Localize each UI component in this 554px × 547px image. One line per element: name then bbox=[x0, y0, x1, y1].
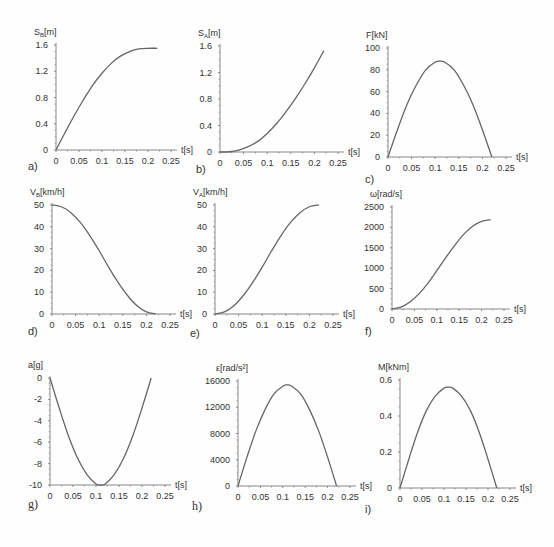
x-tick-label: 0.2 bbox=[303, 320, 316, 330]
chart-panel-c: 00.050.10.150.20.25020406080100t[s]F[kN] bbox=[365, 30, 528, 173]
x-tick-label: 0.05 bbox=[252, 492, 270, 502]
data-line-f bbox=[392, 220, 491, 309]
data-line-d bbox=[52, 205, 156, 314]
x-tick-label: 0 bbox=[397, 494, 402, 504]
y-tick-label: 0 bbox=[37, 373, 42, 383]
panel-tag-e: e) bbox=[190, 327, 200, 339]
x-tick-label: 0.05 bbox=[70, 156, 88, 166]
panel-tag-f: f) bbox=[365, 325, 372, 337]
y-tick-label: 0 bbox=[379, 304, 384, 314]
x-axis-label: t[s] bbox=[360, 481, 372, 491]
x-tick-label: 0.15 bbox=[277, 320, 295, 330]
y-tick-label: 4000 bbox=[210, 455, 230, 465]
x-tick-label: 0 bbox=[385, 163, 390, 173]
x-tick-label: 0.05 bbox=[413, 494, 431, 504]
y-tick-label: 50 bbox=[34, 200, 44, 210]
y-tick-label: 1500 bbox=[364, 243, 384, 253]
x-tick-label: 0.2 bbox=[140, 320, 153, 330]
y-tick-label: 0 bbox=[202, 309, 207, 319]
y-tick-label: 16000 bbox=[205, 376, 230, 386]
panel-tag-c: c) bbox=[365, 173, 374, 185]
y-tick-label: 30 bbox=[34, 244, 44, 254]
x-tick-label: 0.15 bbox=[114, 320, 132, 330]
x-tick-label: 0.05 bbox=[235, 158, 253, 168]
y-tick-label: 10 bbox=[197, 287, 207, 297]
x-tick-label: 0.2 bbox=[308, 158, 321, 168]
x-tick-label: 0.25 bbox=[495, 315, 513, 325]
chart-panel-i: 00.050.10.150.20.2500.20.40.6t[s]M[kNm] bbox=[378, 362, 532, 504]
y-tick-label: 1.2 bbox=[35, 66, 48, 76]
y-tick-label: 0.4 bbox=[379, 411, 392, 421]
y-tick-label: 30 bbox=[197, 244, 207, 254]
y-axis-label: a[g] bbox=[28, 360, 43, 370]
x-tick-label: 0.2 bbox=[321, 492, 334, 502]
x-tick-label: 0.2 bbox=[476, 163, 489, 173]
x-tick-label: 0.2 bbox=[136, 491, 149, 501]
y-tick-label: 50 bbox=[197, 200, 207, 210]
x-tick-label: 0 bbox=[212, 320, 217, 330]
y-tick-label: 0 bbox=[387, 483, 392, 493]
x-tick-label: 0.2 bbox=[482, 494, 495, 504]
chart-panel-g: 00.050.10.150.20.25-10-8-6-4-20t[s]a[g] bbox=[28, 360, 187, 501]
y-tick-label: 1.6 bbox=[35, 40, 48, 50]
x-tick-label: 0.25 bbox=[324, 320, 342, 330]
x-tick-label: 0.25 bbox=[501, 494, 519, 504]
x-axis-label: t[s] bbox=[180, 309, 192, 319]
y-tick-label: 20 bbox=[34, 265, 44, 275]
x-tick-label: 0.15 bbox=[450, 315, 468, 325]
x-tick-label: 0.15 bbox=[457, 494, 475, 504]
data-line-h bbox=[238, 385, 337, 486]
x-tick-label: 0.15 bbox=[296, 492, 314, 502]
x-tick-label: 0.1 bbox=[277, 492, 290, 502]
x-tick-label: 0.1 bbox=[429, 163, 442, 173]
x-tick-label: 0.15 bbox=[282, 158, 300, 168]
x-tick-label: 0.1 bbox=[93, 320, 106, 330]
y-tick-label: 0.6 bbox=[379, 375, 392, 385]
y-tick-label: 40 bbox=[197, 222, 207, 232]
y-tick-label: 20 bbox=[370, 130, 380, 140]
chart-panel-h: 00.050.10.150.20.250400080001200016000t[… bbox=[205, 363, 372, 502]
y-tick-label: 500 bbox=[369, 284, 384, 294]
x-tick-label: 0.25 bbox=[329, 158, 347, 168]
y-tick-label: 1.6 bbox=[199, 41, 212, 51]
y-tick-label: 0.8 bbox=[199, 94, 212, 104]
y-tick-label: 0.2 bbox=[379, 447, 392, 457]
panel-tag-g: g) bbox=[28, 497, 38, 512]
y-axis-label: M[kNm] bbox=[378, 362, 409, 372]
x-tick-label: 0.1 bbox=[256, 320, 269, 330]
panel-tag-h: h) bbox=[192, 499, 202, 514]
panel-tag-b: b) bbox=[196, 163, 206, 175]
y-tick-label: 2000 bbox=[364, 222, 384, 232]
data-line-b bbox=[220, 51, 324, 152]
figure-grid: 00.050.10.150.20.2500.40.81.21.6t[s]SB[m… bbox=[0, 0, 554, 547]
x-tick-label: 0.25 bbox=[497, 163, 515, 173]
y-tick-label: 0.8 bbox=[35, 93, 48, 103]
chart-panel-d: 00.050.10.150.20.2501020304050t[s]VB[km/… bbox=[30, 187, 192, 330]
y-tick-label: 10 bbox=[34, 287, 44, 297]
data-line-e bbox=[215, 205, 319, 314]
x-tick-label: 0.25 bbox=[161, 320, 179, 330]
panel-tag-a: a) bbox=[28, 160, 38, 172]
y-tick-label: 20 bbox=[197, 265, 207, 275]
x-tick-label: 0.2 bbox=[142, 156, 155, 166]
y-tick-label: 0 bbox=[39, 309, 44, 319]
x-axis-label: t[s] bbox=[181, 145, 193, 155]
y-axis-label: F[kN] bbox=[366, 30, 388, 40]
y-axis-label: ε[rad/s²] bbox=[216, 363, 248, 373]
x-tick-label: 0.1 bbox=[90, 491, 103, 501]
x-axis-label: t[s] bbox=[348, 147, 360, 157]
x-axis-label: t[s] bbox=[514, 304, 526, 314]
y-tick-label: -6 bbox=[34, 437, 42, 447]
x-tick-label: 0.1 bbox=[438, 494, 451, 504]
x-tick-label: 0.15 bbox=[116, 156, 134, 166]
data-line-i bbox=[400, 387, 497, 488]
y-tick-label: 12000 bbox=[205, 402, 230, 412]
x-axis-label: t[s] bbox=[175, 480, 187, 490]
x-tick-label: 0 bbox=[235, 492, 240, 502]
y-axis-label: VA[km/h] bbox=[193, 187, 228, 198]
y-tick-label: 2500 bbox=[364, 202, 384, 212]
x-tick-label: 0 bbox=[49, 320, 54, 330]
y-tick-label: 1000 bbox=[364, 263, 384, 273]
chart-panel-f: 00.050.10.150.20.2505001000150020002500t… bbox=[364, 189, 526, 325]
x-tick-label: 0.05 bbox=[67, 320, 85, 330]
